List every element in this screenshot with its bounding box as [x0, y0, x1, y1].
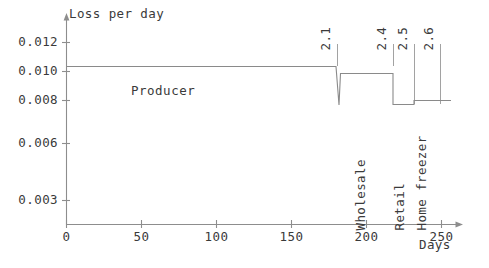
marker-label-2-6: 2.6 — [423, 27, 436, 51]
marker-label-2-4: 2.4 — [376, 27, 389, 51]
x-tick-label-0: 0 — [46, 231, 87, 244]
y-tick-label-0006: 0.006 — [0, 137, 58, 150]
x-tick-label-200: 200 — [346, 231, 387, 244]
y-tick-label-0010: 0.010 — [0, 65, 58, 78]
y-tick-label-0008: 0.008 — [0, 94, 58, 107]
x-axis-arrowhead — [456, 222, 464, 228]
chart-figure: Loss per day Days 0.012 0.010 0.008 0.00… — [0, 0, 489, 268]
stage-label-wholesale: Wholesale — [355, 159, 368, 230]
x-tick-label-250: 250 — [421, 231, 462, 244]
y-tick-label-0003: 0.003 — [0, 194, 58, 207]
x-tick-label-150: 150 — [271, 231, 312, 244]
series-label-producer: Producer — [131, 85, 195, 98]
loss-step-series — [67, 67, 451, 106]
x-tick-label-50: 50 — [121, 231, 162, 244]
marker-label-2-5: 2.5 — [397, 27, 410, 51]
marker-label-2-1: 2.1 — [320, 27, 333, 51]
stage-label-home-freezer: Home freezer — [416, 135, 429, 230]
x-tick-label-100: 100 — [196, 231, 237, 244]
stage-label-retail: Retail — [394, 183, 407, 231]
y-tick-label-0012: 0.012 — [0, 36, 58, 49]
y-axis-title: Loss per day — [69, 8, 164, 21]
